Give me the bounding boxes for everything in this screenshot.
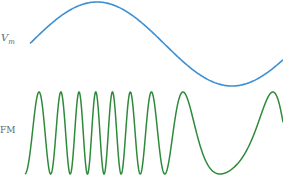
fm-carrier-wave [25, 92, 283, 174]
fm-modulation-diagram [0, 0, 283, 184]
message-signal-label: Vm [1, 32, 15, 46]
message-signal-wave [30, 2, 283, 86]
fm-signal-label: FM [0, 125, 15, 135]
